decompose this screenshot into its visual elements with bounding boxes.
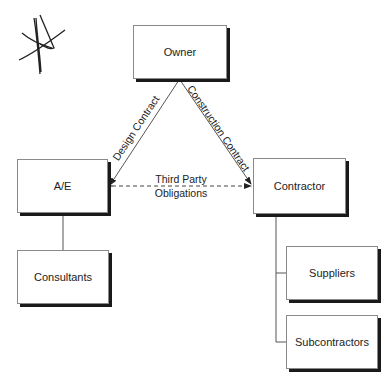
signature-scribble-icon [19,15,65,74]
subcontractors-box: Subcontractors [286,315,378,369]
ae-label: A/E [54,180,72,192]
consultants-label: Consultants [34,271,92,283]
contractor-box: Contractor [253,158,346,214]
ae-box: A/E [17,159,108,213]
subcontractors-label: Subcontractors [295,336,369,348]
consultants-box: Consultants [17,250,109,304]
design-contract-line [110,80,179,185]
suppliers-box: Suppliers [286,246,378,300]
contractor-tree-connector [276,215,286,342]
suppliers-label: Suppliers [309,267,355,279]
third-party-label-line2: Obligations [151,187,211,199]
contractor-label: Contractor [274,180,325,192]
owner-label: Owner [164,46,196,58]
owner-box: Owner [133,25,227,79]
third-party-label-line1: Third Party [151,173,211,185]
